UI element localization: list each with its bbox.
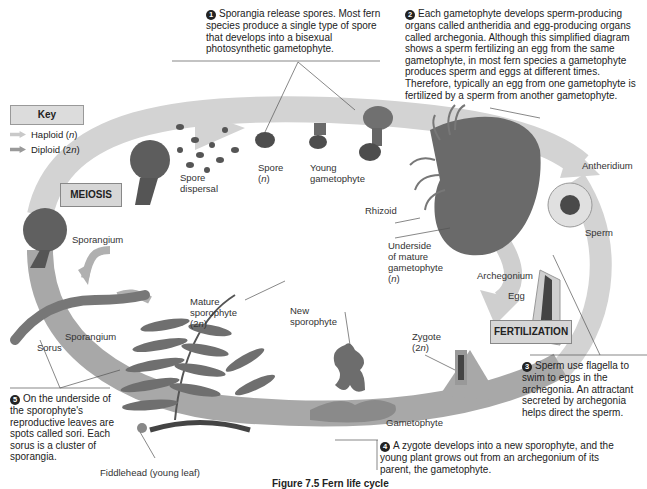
legend-title: Key (10, 105, 84, 125)
meiosis-stage-box: MEIOSIS (60, 183, 122, 207)
label-sporangium-bottom: Sporangium (65, 331, 116, 342)
label-rhizoid: Rhizoid (365, 205, 397, 216)
note-2: 2Each gametophyte develops sperm-produci… (405, 8, 640, 101)
note-4-text: A zygote develops into a new sporophyte,… (380, 440, 614, 475)
antheridium (548, 183, 592, 227)
fertilization-stage-box: FERTILIZATION (490, 320, 572, 344)
figure-caption: Figure 7.5 Fern life cycle (272, 478, 389, 489)
new-sporophyte (334, 343, 365, 391)
legend-label-haploid: Haploid (n) (31, 129, 78, 140)
note-2-text: Each gametophyte develops sperm-producin… (405, 8, 636, 101)
diploid-arrowhead-zygote (440, 350, 500, 400)
diploid-arrow-icon (10, 146, 26, 153)
step-number-4-icon: 4 (380, 442, 390, 452)
sporangium-open (130, 140, 170, 205)
note-3: 3Sperm use flagella to swim to eggs in t… (522, 360, 644, 418)
label-gametophyte: Gametophyte (386, 417, 443, 428)
fiddlehead (137, 423, 147, 433)
label-sorus: Sorus (37, 342, 62, 353)
legend-key: Key Haploid (n) Diploid (2n) (10, 105, 82, 155)
label-spore: Spore(n) (258, 162, 283, 184)
note-4: 4A zygote develops into a new sporophyte… (380, 440, 615, 475)
young-gametophyte (309, 123, 327, 149)
label-egg: Egg (508, 290, 525, 301)
spore (255, 132, 275, 148)
rhizome (150, 423, 250, 431)
label-new-sporophyte: Newsporophyte (290, 305, 337, 327)
legend-item-haploid: Haploid (n) (10, 129, 82, 140)
label-underside-gametophyte: Undersideof maturegametophyte(n) (388, 240, 443, 284)
step-number-5-icon: 5 (10, 395, 20, 405)
older-gametophyte (359, 106, 393, 161)
note-5-text: On the underside of the sporophyte's rep… (10, 393, 114, 462)
label-fiddlehead: Fiddlehead (young leaf) (100, 467, 200, 478)
step-number-1-icon: 1 (206, 10, 216, 20)
zygote (455, 350, 467, 385)
label-sperm: Sperm (585, 227, 613, 238)
note-5: 5On the underside of the sporophyte's re… (10, 393, 118, 463)
label-antheridium: Antheridium (582, 160, 633, 171)
label-spore-dispersal: Sporedispersal (180, 172, 218, 194)
label-zygote: Zygote(2n) (412, 331, 441, 353)
label-mature-sporophyte: Maturesporophyte(2n) (190, 296, 237, 329)
label-archegonium: Archegonium (477, 270, 533, 281)
haploid-arrow-icon (10, 131, 26, 138)
note-1-text: Sporangia release spores. Most fern spec… (206, 8, 380, 54)
legend-item-diploid: Diploid (2n) (10, 144, 82, 155)
step-number-2-icon: 2 (405, 10, 415, 20)
note-3-text: Sperm use flagella to swim to eggs in th… (522, 360, 633, 418)
legend-label-diploid: Diploid (2n) (31, 144, 80, 155)
note-1: 1Sporangia release spores. Most fern spe… (206, 8, 386, 55)
step-number-3-icon: 3 (522, 362, 532, 372)
label-sporangium-top: Sporangium (72, 234, 123, 245)
label-young-gametophyte: Younggametophyte (310, 162, 365, 184)
